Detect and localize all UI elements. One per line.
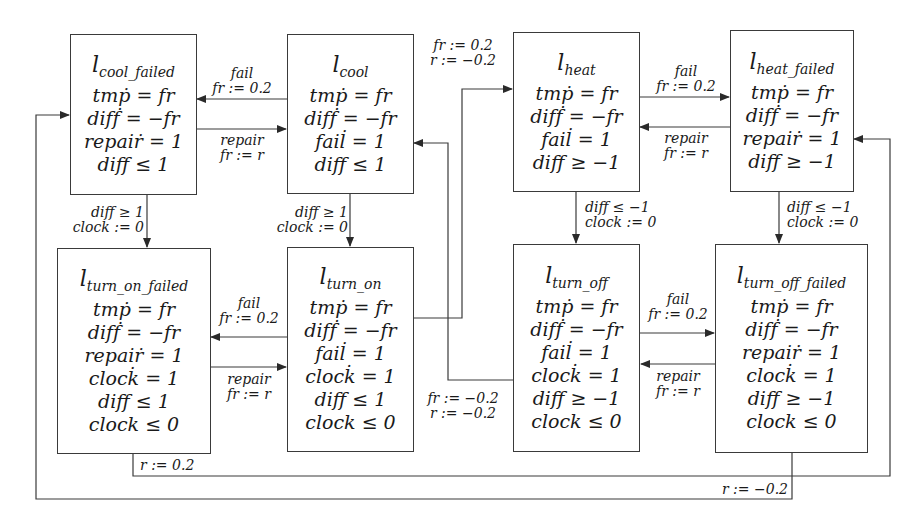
flow-equation: tmṗ = fr — [536, 295, 618, 318]
flow-equation: difḟ = −fr — [87, 107, 179, 130]
flow-equation: tmṗ = fr — [93, 298, 175, 321]
invariant: diff ≤ 1 — [315, 153, 387, 176]
location-title: lcool — [332, 53, 368, 84]
edge-label-reset: fr := 0.2r := −0.2 — [414, 38, 512, 68]
location-title: lturn_off_failed — [737, 264, 846, 295]
location-title: lturn_on — [320, 265, 382, 296]
edge-label-fail: failfr := 0.2 — [643, 64, 729, 94]
edge-label-guard: diff ≤ −1clock := 0 — [787, 200, 897, 230]
edge-turn-on-to-heat — [413, 89, 512, 318]
flow-equation: tmṗ = fr — [751, 81, 833, 104]
location-title: lheat_failed — [749, 50, 834, 81]
location-title: lturn_off — [545, 264, 608, 295]
edge-label-guard: diff ≤ −1clock := 0 — [585, 200, 695, 230]
edge-label-reset: r := 0.2 — [140, 458, 220, 473]
invariant: diff ≥ −1 — [533, 387, 621, 410]
edge-label-fail: failfr := 0.2 — [209, 296, 289, 326]
flow-equation: tmṗ = fr — [751, 295, 833, 318]
hybrid-automaton-diagram: lcool_failed tmṗ = fr difḟ = −fr repai… — [0, 0, 921, 531]
edge-label-reset: fr := −0.2r := −0.2 — [413, 391, 513, 421]
flow-equation: clock̇ = 1 — [305, 365, 395, 388]
location-title: lheat — [557, 51, 595, 82]
flow-equation: fail̇ = 1 — [541, 128, 612, 151]
flow-equation: clock̇ = 1 — [531, 364, 621, 387]
location-title: lturn_on_failed — [80, 267, 189, 298]
location-turn-off-failed: lturn_off_failed tmṗ = fr difḟ = −fr r… — [715, 244, 868, 453]
flow-equation: repaiṙ = 1 — [742, 127, 841, 150]
flow-equation: difḟ = −fr — [746, 104, 838, 127]
flow-equation: fail̇ = 1 — [315, 130, 386, 153]
flow-equation: clock̇ = 1 — [746, 364, 836, 387]
flow-equation: tmṗ = fr — [536, 82, 618, 105]
location-cool-failed: lcool_failed tmṗ = fr difḟ = −fr repai… — [70, 34, 197, 195]
location-cool: lcool tmṗ = fr difḟ = −fr fail̇ = 1 di… — [287, 34, 414, 194]
flow-equation: difḟ = −fr — [304, 319, 396, 342]
location-heat-failed: lheat_failed tmṗ = fr difḟ = −fr repai… — [730, 30, 854, 192]
flow-equation: difḟ = −fr — [530, 318, 622, 341]
flow-equation: repaiṙ = 1 — [84, 130, 183, 153]
location-turn-on-failed: lturn_on_failed tmṗ = fr difḟ = −fr re… — [57, 248, 211, 454]
flow-equation: repaiṙ = 1 — [742, 341, 841, 364]
edge-label-repair: repairfr := r — [209, 372, 289, 402]
flow-equation: difḟ = −fr — [304, 107, 396, 130]
flow-equation: tmṗ = fr — [310, 84, 392, 107]
edge-label-fail: failfr := 0.2 — [200, 66, 284, 96]
invariant: diff ≤ 1 — [98, 153, 170, 176]
invariant: diff ≤ 1 — [98, 390, 170, 413]
edge-label-repair: repairfr := r — [645, 131, 727, 161]
flow-equation: clock̇ = 1 — [89, 367, 179, 390]
flow-equation: tmṗ = fr — [310, 296, 392, 319]
invariant: diff ≥ −1 — [748, 150, 836, 173]
flow-equation: difḟ = −fr — [745, 318, 837, 341]
flow-equation: fail̇ = 1 — [315, 342, 386, 365]
flow-equation: difḟ = −fr — [530, 105, 622, 128]
flow-equation: difḟ = −fr — [88, 321, 180, 344]
edge-label-fail: failfr := 0.2 — [638, 292, 718, 322]
invariant: diff ≥ −1 — [748, 387, 836, 410]
flow-equation: repaiṙ = 1 — [84, 344, 183, 367]
invariant: clock ≤ 0 — [746, 410, 836, 433]
edge-label-repair: repairfr := r — [638, 369, 718, 399]
invariant: diff ≥ −1 — [533, 151, 621, 174]
edge-turn-off-to-cool — [414, 143, 514, 380]
flow-equation: tmṗ = fr — [93, 84, 175, 107]
edge-label-guard: diff ≥ 1clock := 0 — [244, 205, 348, 235]
edge-label-reset: r := −0.2 — [700, 482, 788, 497]
location-turn-off: lturn_off tmṗ = fr difḟ = −fr fail̇ = … — [513, 244, 640, 452]
invariant: diff ≤ 1 — [315, 388, 387, 411]
location-turn-on: lturn_on tmṗ = fr difḟ = −fr fail̇ = 1… — [287, 247, 414, 452]
flow-equation: fail̇ = 1 — [541, 341, 612, 364]
edge-label-guard: diff ≥ 1clock := 0 — [40, 205, 144, 235]
edge-label-repair: repairfr := r — [200, 133, 284, 163]
invariant: clock ≤ 0 — [89, 413, 179, 436]
location-title: lcool_failed — [92, 53, 175, 84]
location-heat: lheat tmṗ = fr difḟ = −fr fail̇ = 1 di… — [513, 32, 640, 192]
invariant: clock ≤ 0 — [305, 411, 395, 434]
invariant: clock ≤ 0 — [531, 410, 621, 433]
